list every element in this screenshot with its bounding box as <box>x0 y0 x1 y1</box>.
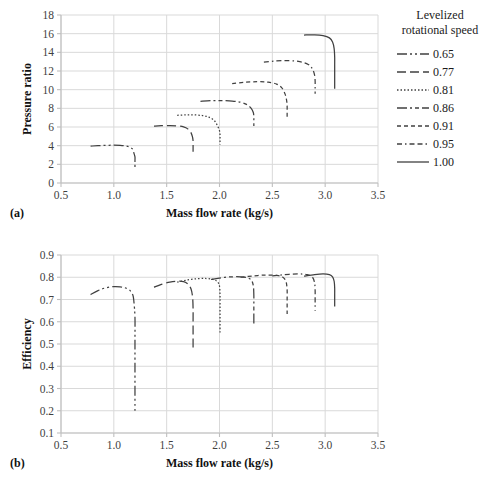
legend-rows: 0.650.770.810.860.910.951.00 <box>382 45 496 171</box>
legend-a: Levelized rotational speed 0.650.770.810… <box>382 8 496 171</box>
x-tick-label: 2.5 <box>265 439 280 451</box>
series-line-0.91 <box>232 82 287 117</box>
y-tick-label: 16 <box>43 28 55 40</box>
x-tick-label: 2.0 <box>212 189 227 201</box>
series-line-0.86 <box>211 277 254 324</box>
panel-tag: (a) <box>10 206 24 220</box>
series-line-1.00 <box>304 35 335 89</box>
y-axis-title: Efficiency <box>20 318 34 369</box>
y-tick-label: 0.6 <box>40 316 55 328</box>
legend-item-1.00[interactable]: 1.00 <box>382 153 496 171</box>
x-tick-label: 1.5 <box>159 189 174 201</box>
legend-label: 0.77 <box>433 65 454 80</box>
y-tick-label: 8 <box>48 102 54 114</box>
y-tick-label: 4 <box>48 140 54 152</box>
legend-swatch-icon <box>396 103 430 113</box>
series-line-0.95 <box>264 61 315 94</box>
series-line-1.00 <box>304 274 335 307</box>
y-tick-label: 18 <box>43 9 55 21</box>
legend-title: Levelized rotational speed <box>382 8 496 38</box>
efficiency-plot: 0.51.01.52.02.53.03.50.10.20.30.40.50.60… <box>0 240 496 490</box>
x-tick-label: 3.0 <box>318 439 333 451</box>
y-tick-label: 0.3 <box>40 383 55 395</box>
x-tick-label: 1.0 <box>107 439 122 451</box>
legend-label: 0.81 <box>433 83 454 98</box>
legend-title-line1: Levelized <box>382 8 496 23</box>
y-tick-label: 0.7 <box>40 294 55 306</box>
y-tick-label: 2 <box>48 158 54 170</box>
x-tick-label: 2.0 <box>212 439 227 451</box>
series-line-0.65 <box>91 287 135 411</box>
series-line-0.77 <box>154 281 193 348</box>
x-tick-label: 2.5 <box>265 189 280 201</box>
series-line-0.77 <box>154 126 193 152</box>
legend-label: 0.86 <box>433 101 454 116</box>
legend-label: 0.91 <box>433 119 454 134</box>
y-axis-title: Pressure ratio <box>20 63 34 135</box>
legend-swatch-icon <box>396 139 430 149</box>
x-tick-label: 3.5 <box>371 189 386 201</box>
legend-label: 1.00 <box>433 155 454 170</box>
y-tick-label: 0.1 <box>40 427 55 439</box>
x-axis-title: Mass flow rate (kg/s) <box>166 206 273 220</box>
y-tick-label: 0.9 <box>40 249 55 261</box>
x-tick-label: 3.0 <box>318 189 333 201</box>
legend-label: 0.65 <box>433 47 454 62</box>
x-tick-label: 1.0 <box>107 189 122 201</box>
series-line-0.95 <box>272 274 315 311</box>
y-tick-label: 0.5 <box>40 338 55 350</box>
series-line-0.91 <box>241 275 288 314</box>
legend-item-0.91[interactable]: 0.91 <box>382 117 496 135</box>
y-tick-label: 0.4 <box>40 360 55 372</box>
panel-b: 0.51.01.52.02.53.03.50.10.20.30.40.50.60… <box>0 240 496 490</box>
legend-label: 0.95 <box>433 137 454 152</box>
series-line-0.81 <box>177 278 220 332</box>
legend-item-0.86[interactable]: 0.86 <box>382 99 496 117</box>
legend-item-0.65[interactable]: 0.65 <box>382 45 496 63</box>
y-tick-label: 6 <box>48 121 54 133</box>
legend-swatch-icon <box>396 121 430 131</box>
legend-item-0.95[interactable]: 0.95 <box>382 135 496 153</box>
series-line-0.81 <box>177 115 220 145</box>
legend-swatch-icon <box>396 49 430 59</box>
legend-title-line2: rotational speed <box>382 23 496 38</box>
y-tick-label: 0 <box>48 177 54 189</box>
legend-swatch-icon <box>396 85 430 95</box>
y-tick-label: 10 <box>43 84 55 96</box>
x-tick-label: 0.5 <box>54 189 69 201</box>
figure-compressor-maps: 0.51.01.52.02.53.03.5024681012141618Mass… <box>0 0 496 490</box>
x-axis-title: Mass flow rate (kg/s) <box>166 456 273 470</box>
legend-item-0.81[interactable]: 0.81 <box>382 81 496 99</box>
x-tick-label: 3.5 <box>371 439 386 451</box>
y-tick-label: 14 <box>43 46 55 58</box>
x-tick-label: 1.5 <box>159 439 174 451</box>
x-tick-label: 0.5 <box>54 439 69 451</box>
series-line-0.86 <box>200 101 253 127</box>
legend-swatch-icon <box>396 157 430 167</box>
legend-item-0.77[interactable]: 0.77 <box>382 63 496 81</box>
y-tick-label: 0.8 <box>40 271 55 283</box>
y-tick-label: 12 <box>43 65 55 77</box>
panel-a: 0.51.01.52.02.53.03.5024681012141618Mass… <box>0 0 496 240</box>
y-tick-label: 0.2 <box>40 405 55 417</box>
legend-swatch-icon <box>396 67 430 77</box>
panel-tag: (b) <box>10 456 25 470</box>
